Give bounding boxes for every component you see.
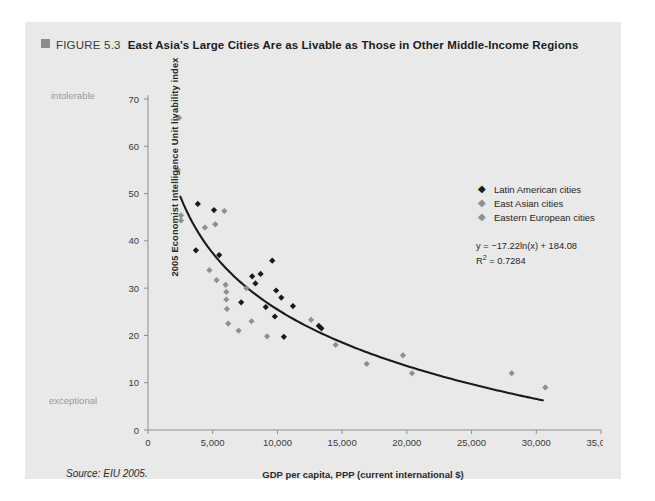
- x-axis-tick-label: 0: [145, 437, 150, 448]
- data-point: [195, 201, 201, 207]
- data-point: [193, 247, 199, 253]
- scatter-plot-svg: 01020304050607005,00010,00015,00020,0002…: [123, 77, 603, 462]
- trendline-equation-annotation: y = −17.22ln(x) + 184.08 R2 = 0.7284: [476, 240, 577, 267]
- data-point: [212, 221, 218, 227]
- x-axis-tick-label: 5,000: [201, 437, 225, 448]
- y-axis-tick-label: 0: [134, 425, 139, 436]
- y-axis-tick-label: 50: [128, 188, 139, 199]
- source-note: Source: EIU 2005.: [66, 468, 148, 479]
- data-point: [333, 342, 339, 348]
- trendline-layer: [180, 197, 542, 401]
- chart-legend: ◆ Latin American cities ◆ East Asian cit…: [476, 182, 595, 224]
- chart-plot-area: 01020304050607005,00010,00015,00020,0002…: [123, 77, 603, 432]
- figure-title: East Asia's Large Cities Are as Livable …: [128, 39, 579, 51]
- y-axis-bottom-note: exceptional: [49, 395, 97, 406]
- data-point: [273, 287, 279, 293]
- legend-label: Latin American cities: [494, 184, 581, 195]
- legend-item-eastern-european: ◆ Eastern European cities: [476, 210, 595, 224]
- data-point: [278, 295, 284, 301]
- data-point: [263, 304, 269, 310]
- data-point: [224, 306, 230, 312]
- x-axis-tick-label: 30,000: [522, 437, 551, 448]
- data-point: [269, 258, 275, 264]
- x-axis-tick-label: 25,000: [457, 437, 486, 448]
- y-axis-tick-label: 20: [128, 330, 139, 341]
- data-point: [238, 299, 244, 305]
- data-point: [211, 207, 217, 213]
- data-point: [202, 225, 208, 231]
- r-squared-symbol: R: [476, 256, 483, 266]
- equation-line: y = −17.22ln(x) + 184.08: [476, 240, 577, 252]
- figure-number-label: FIGURE 5.3: [56, 39, 121, 51]
- data-point: [221, 208, 227, 214]
- y-axis-tick-label: 40: [128, 235, 139, 246]
- data-point: [213, 277, 219, 283]
- y-axis-top-note: intolerable: [51, 90, 95, 101]
- x-axis-title: GDP per capita, PPP (current internation…: [123, 469, 603, 480]
- data-point: [206, 267, 212, 273]
- data-point: [509, 370, 515, 376]
- legend-item-latin-american: ◆ Latin American cities: [476, 182, 595, 196]
- data-point: [542, 384, 548, 390]
- data-point: [264, 333, 270, 339]
- y-axis-title: 2005 Economist Intelligence Unit livabil…: [170, 52, 180, 282]
- data-point: [272, 313, 278, 319]
- figure-container: FIGURE 5.3 East Asia's Large Cities Are …: [0, 0, 655, 501]
- y-axis-tick-label: 10: [128, 377, 139, 388]
- r-squared-line: R2 = 0.7284: [476, 252, 577, 267]
- y-axis-tick-label: 60: [128, 141, 139, 152]
- y-axis-tick-label: 30: [128, 283, 139, 294]
- trendline: [180, 197, 542, 401]
- legend-marker-icon: ◆: [476, 212, 487, 222]
- data-point: [252, 280, 258, 286]
- data-point: [225, 321, 231, 327]
- figure-marker-icon: [41, 39, 50, 48]
- data-point: [248, 318, 254, 324]
- data-point: [400, 352, 406, 358]
- data-point: [281, 334, 287, 340]
- legend-label: Eastern European cities: [494, 212, 595, 223]
- x-axis-tick-label: 35,000: [586, 437, 603, 448]
- data-point: [223, 289, 229, 295]
- legend-item-east-asian: ◆ East Asian cities: [476, 196, 595, 210]
- figure-title-row: FIGURE 5.3 East Asia's Large Cities Are …: [41, 39, 578, 51]
- data-point: [223, 282, 229, 288]
- data-point: [409, 370, 415, 376]
- data-point: [258, 271, 264, 277]
- r-squared-value: = 0.7284: [487, 256, 526, 266]
- legend-label: East Asian cities: [494, 198, 563, 209]
- y-axis-tick-label: 70: [128, 94, 139, 105]
- x-axis-tick-label: 15,000: [328, 437, 357, 448]
- legend-marker-icon: ◆: [476, 184, 487, 194]
- data-point: [223, 296, 229, 302]
- data-point: [308, 317, 314, 323]
- data-point: [236, 328, 242, 334]
- data-point: [249, 273, 255, 279]
- legend-marker-icon: ◆: [476, 198, 487, 208]
- figure-panel: FIGURE 5.3 East Asia's Large Cities Are …: [25, 22, 621, 479]
- data-point: [290, 303, 296, 309]
- x-axis-tick-label: 10,000: [263, 437, 292, 448]
- data-point: [364, 361, 370, 367]
- x-axis-tick-label: 20,000: [392, 437, 421, 448]
